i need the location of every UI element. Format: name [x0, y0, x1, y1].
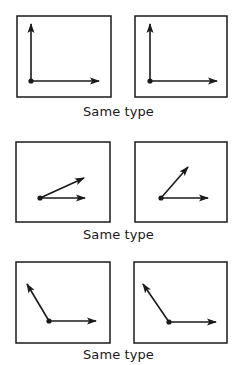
origin-point-icon: [158, 195, 163, 200]
origin-point-icon: [37, 195, 42, 200]
panel-r3-left: [16, 262, 110, 343]
panel-r1-right: [135, 16, 227, 97]
row-1-caption: Same type: [0, 104, 237, 120]
panel-frame: [135, 142, 227, 222]
panel-frame: [134, 262, 227, 343]
origin-point-icon: [166, 319, 171, 324]
panel-r2-left: [16, 142, 110, 222]
row-3-caption: Same type: [0, 347, 237, 363]
panel-frame: [135, 16, 227, 97]
row-2-caption: Same type: [0, 227, 237, 243]
panel-r1-left: [17, 16, 111, 97]
origin-point-icon: [46, 318, 51, 323]
panel-r2-right: [135, 142, 227, 222]
panel-frame: [16, 262, 110, 343]
origin-point-icon: [28, 78, 33, 83]
vector-pairs-diagram: [0, 0, 237, 365]
panels-layer: [16, 16, 227, 343]
panel-r3-right: [134, 262, 227, 343]
panel-frame: [16, 142, 110, 222]
origin-point-icon: [147, 78, 152, 83]
